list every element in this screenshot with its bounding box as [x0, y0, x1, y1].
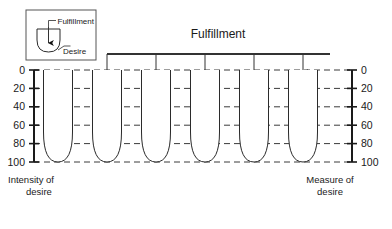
- left-axis-caption-line1: Intensity of: [8, 174, 54, 185]
- vessel-5: [237, 70, 271, 166]
- right-tick-label-40: 40: [361, 100, 373, 112]
- vessel-4: [188, 70, 222, 166]
- left-tick-label-0: 0: [19, 64, 25, 76]
- right-tick-label-20: 20: [361, 82, 373, 94]
- left-tick-label-60: 60: [13, 119, 25, 131]
- vessel-4-outline: [191, 70, 220, 162]
- left-axis-caption-line2: desire: [26, 186, 52, 197]
- vessel-5-outline: [240, 70, 269, 162]
- vessel-1: [44, 70, 73, 162]
- fulfillment-diagram: Fulfillment Desire Fulfillment: [0, 0, 392, 229]
- right-tick-label-0: 0: [361, 64, 367, 76]
- right-tick-label-80: 80: [361, 137, 373, 149]
- vessel-2: [90, 70, 124, 166]
- right-axis-caption-line2: desire: [317, 186, 343, 197]
- vessel-3-outline: [142, 70, 171, 162]
- vessel-6-outline: [289, 70, 318, 162]
- left-tick-label-100: 100: [7, 156, 25, 168]
- right-tick-label-100: 100: [361, 156, 379, 168]
- vessel-2-outline: [93, 70, 122, 162]
- vessel-3: [139, 70, 173, 166]
- vessel-6: [286, 70, 320, 166]
- chart-title: Fulfillment: [191, 27, 246, 41]
- left-tick-label-80: 80: [13, 137, 25, 149]
- left-tick-label-20: 20: [13, 82, 25, 94]
- legend-fulfillment-label: Fulfillment: [58, 17, 95, 26]
- vessel-1-outline: [44, 70, 73, 162]
- legend-key: Fulfillment Desire: [26, 10, 96, 60]
- legend-desire-label: Desire: [63, 47, 87, 56]
- left-tick-label-40: 40: [13, 100, 25, 112]
- right-tick-label-60: 60: [361, 119, 373, 131]
- diagram-canvas: Fulfillment Desire Fulfillment: [0, 0, 392, 229]
- right-axis-caption-line1: Measure of: [306, 174, 354, 185]
